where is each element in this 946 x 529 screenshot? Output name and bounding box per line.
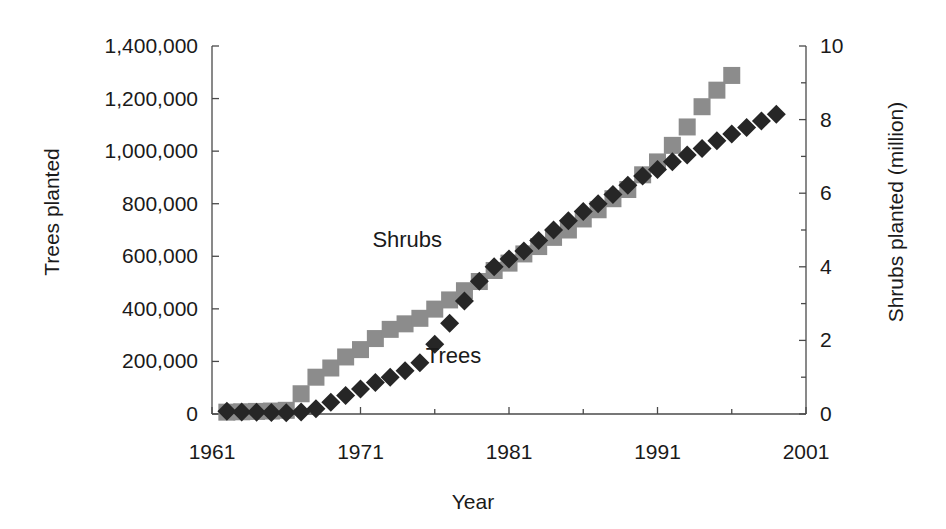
data-point-marker xyxy=(382,321,399,338)
y-axis-left-tick-label: 1,000,000 xyxy=(0,139,198,163)
y-axis-left-tick-label: 0 xyxy=(0,402,198,426)
x-axis-tick-label: 1971 xyxy=(337,440,384,464)
series-annotation-shrubs: Shrubs xyxy=(372,227,442,253)
y-axis-left-tick-label: 800,000 xyxy=(0,192,198,216)
series-annotation-trees: Trees xyxy=(426,343,481,369)
x-axis-tick-label: 1961 xyxy=(189,440,236,464)
y-axis-left-tick-label: 600,000 xyxy=(0,244,198,268)
chart-page: Trees planted Shrubs planted (million) Y… xyxy=(0,0,946,529)
data-point-marker xyxy=(426,301,443,318)
data-point-marker xyxy=(367,330,384,347)
y-axis-right-tick-label: 4 xyxy=(820,255,832,279)
data-point-marker xyxy=(397,315,414,332)
data-point-marker xyxy=(337,348,354,365)
y-axis-left-tick-label: 1,400,000 xyxy=(0,34,198,58)
y-axis-left-tick-label: 400,000 xyxy=(0,297,198,321)
y-axis-right-tick-label: 0 xyxy=(820,402,832,426)
y-axis-right-tick-label: 8 xyxy=(820,108,832,132)
data-point-marker xyxy=(708,82,725,99)
data-point-marker xyxy=(411,310,428,327)
data-point-marker xyxy=(441,291,458,308)
y-axis-right-tick-label: 2 xyxy=(820,328,832,352)
data-series-layer xyxy=(217,67,785,422)
data-point-marker xyxy=(322,360,339,377)
data-point-marker xyxy=(664,137,681,154)
x-axis-tick-label: 1991 xyxy=(634,440,681,464)
x-axis-tick-label: 2001 xyxy=(783,440,830,464)
x-axis-tick-label: 1981 xyxy=(486,440,533,464)
data-point-marker xyxy=(694,98,711,115)
y-axis-left-tick-label: 200,000 xyxy=(0,349,198,373)
data-point-marker xyxy=(293,385,310,402)
y-axis-left-tick-label: 1,200,000 xyxy=(0,87,198,111)
data-point-marker xyxy=(679,118,696,135)
data-point-marker xyxy=(352,341,369,358)
y-axis-right-tick-label: 10 xyxy=(820,34,843,58)
y-axis-right-tick-label: 6 xyxy=(820,181,832,205)
axis-lines xyxy=(212,46,806,414)
tick-marks xyxy=(212,46,806,414)
data-point-marker xyxy=(723,67,740,84)
data-point-marker xyxy=(307,369,324,386)
